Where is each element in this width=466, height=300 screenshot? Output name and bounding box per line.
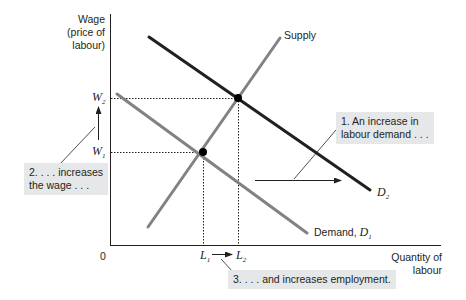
l1-letter: L	[200, 248, 207, 262]
w2-label: W2	[92, 91, 106, 109]
note2-line1: 2. . . . increases	[29, 166, 103, 179]
demand1-label-prefix: Demand,	[314, 226, 360, 238]
demand1-curve	[117, 94, 307, 233]
equilibrium-point-1	[199, 148, 207, 156]
w1-label: W1	[92, 145, 106, 163]
demand2-letter: D	[377, 185, 386, 199]
y-axis-label-line3: labour)	[62, 39, 105, 52]
equilibrium-point-2	[234, 94, 242, 102]
l1-subscript: 1	[207, 256, 211, 264]
y-axis-label-line1: Wage	[62, 13, 105, 26]
w1-subscript: 1	[102, 152, 106, 160]
note1-leader	[294, 130, 336, 179]
note1-line1: 1. An increase in	[341, 115, 429, 128]
origin-label: 0	[100, 250, 106, 263]
l2-label: L2	[236, 249, 246, 267]
x-axis-label-line2: labour	[390, 264, 442, 277]
demand1-symbol: D1	[360, 225, 372, 239]
supply-label: Supply	[284, 29, 316, 42]
note1-line2: labour demand . . .	[341, 128, 429, 141]
demand2-subscript: 2	[386, 193, 390, 201]
l1-label: L1	[200, 249, 210, 267]
demand2-label: D2	[377, 186, 389, 204]
note-demand-increase: 1. An increase in labour demand . . .	[336, 112, 434, 144]
x-axis-label: Quantity of labour	[390, 251, 442, 277]
note2-leader	[59, 127, 95, 165]
y-axis-label: Wage (price of labour)	[62, 13, 105, 52]
w2-subscript: 2	[102, 98, 106, 106]
demand1-letter: D	[360, 225, 369, 239]
l2-subscript: 2	[243, 256, 247, 264]
note-wage-increase: 2. . . . increases the wage . . .	[24, 163, 108, 195]
y-axis-label-line2: (price of	[62, 26, 105, 39]
x-axis-label-line1: Quantity of	[390, 251, 442, 264]
note3-text: 3. . . . and increases employment.	[233, 273, 391, 286]
note2-line2: the wage . . .	[29, 179, 103, 192]
demand1-subscript: 1	[368, 233, 372, 241]
note-employment-increase: 3. . . . and increases employment.	[228, 270, 396, 289]
l2-letter: L	[236, 248, 243, 262]
w2-letter: W	[92, 90, 102, 104]
w1-letter: W	[92, 144, 102, 158]
demand1-label: Demand, D1	[314, 226, 372, 244]
